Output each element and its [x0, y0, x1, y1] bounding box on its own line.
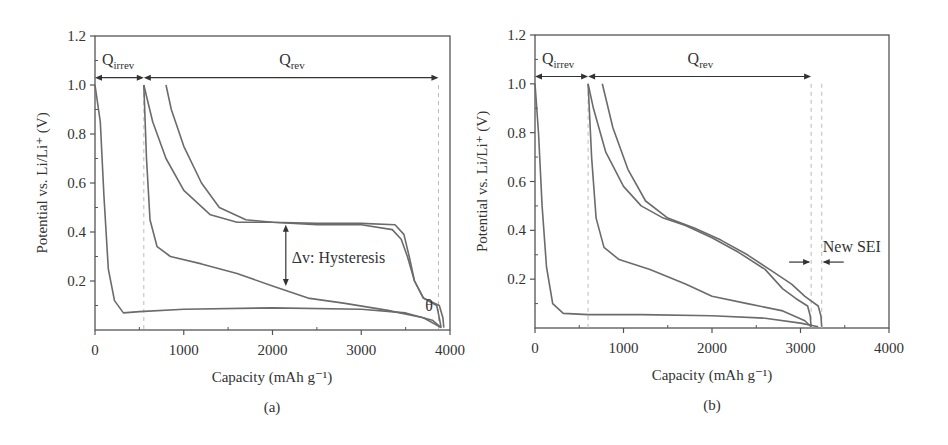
y-tick-label: 1.2 — [507, 27, 526, 43]
y-tick-label: 0.4 — [67, 224, 86, 240]
q-irrev-label: Qirrev — [542, 50, 575, 70]
panel-a: 010002000300040000.20.40.60.81.01.2Capac… — [34, 28, 465, 416]
curve-1st-discharge — [95, 85, 441, 328]
x-axis-title: Capacity (mAh g⁻¹) — [212, 369, 333, 386]
arrow-head-icon — [137, 75, 144, 81]
x-tick-label: 1000 — [169, 342, 199, 358]
y-tick-label: 0.4 — [507, 222, 526, 238]
x-tick-label: 1000 — [609, 340, 639, 356]
curve-charge-2 — [602, 84, 821, 327]
new-sei-label: New SEI — [823, 238, 881, 255]
x-tick-label: 0 — [91, 342, 99, 358]
hysteresis-label: Δv: Hysteresis — [292, 249, 385, 267]
panel-b: 010002000300040000.20.40.60.81.01.2Capac… — [474, 27, 904, 414]
x-tick-label: 2000 — [258, 342, 288, 358]
curve-charge-2 — [166, 85, 444, 328]
arrow-head-icon — [581, 74, 588, 80]
x-tick-label: 0 — [531, 340, 539, 356]
arrow-head-icon — [144, 75, 151, 81]
figure: 010002000300040000.20.40.60.81.01.2Capac… — [0, 0, 948, 445]
y-axis-title: Potential vs. Li/Li⁺ (V) — [34, 112, 51, 253]
arrow-head-icon — [283, 225, 289, 232]
curve-charge-1 — [144, 85, 441, 328]
y-tick-label: 1.0 — [507, 76, 526, 92]
y-tick-label: 0.2 — [67, 273, 86, 289]
arrow-head-icon — [823, 259, 830, 265]
x-tick-label: 2000 — [697, 340, 727, 356]
y-tick-label: 0.2 — [507, 271, 526, 287]
arrow-head-icon — [535, 74, 542, 80]
x-tick-label: 4000 — [874, 340, 904, 356]
y-tick-label: 0.6 — [67, 175, 86, 191]
y-tick-label: 0.6 — [507, 174, 526, 190]
y-tick-label: 1.0 — [67, 77, 86, 93]
y-tick-label: 1.2 — [67, 28, 86, 44]
theta-label: θ — [425, 297, 433, 314]
curve-1st-discharge — [535, 84, 818, 327]
y-tick-label: 0.8 — [67, 126, 86, 142]
x-tick-label: 3000 — [786, 340, 816, 356]
q-rev-label: Qrev — [279, 51, 305, 71]
q-irrev-label: Qirrev — [102, 51, 135, 71]
panel-caption: (b) — [703, 397, 721, 414]
x-axis-title: Capacity (mAh g⁻¹) — [652, 367, 773, 384]
arrow-head-icon — [804, 74, 811, 80]
arrow-head-icon — [588, 74, 595, 80]
arrow-head-icon — [431, 75, 438, 81]
y-tick-label: 0.8 — [507, 125, 526, 141]
arrow-head-icon — [283, 279, 289, 286]
y-axis-title: Potential vs. Li/Li⁺ (V) — [474, 111, 491, 252]
panel-caption: (a) — [264, 399, 281, 416]
x-tick-label: 4000 — [435, 342, 465, 358]
arrow-head-icon — [803, 259, 810, 265]
curve-2nd-discharge — [144, 85, 441, 328]
x-tick-label: 3000 — [346, 342, 376, 358]
q-rev-label: Qrev — [688, 50, 714, 70]
curve-2nd-discharge — [588, 84, 811, 327]
arrow-head-icon — [95, 75, 102, 81]
